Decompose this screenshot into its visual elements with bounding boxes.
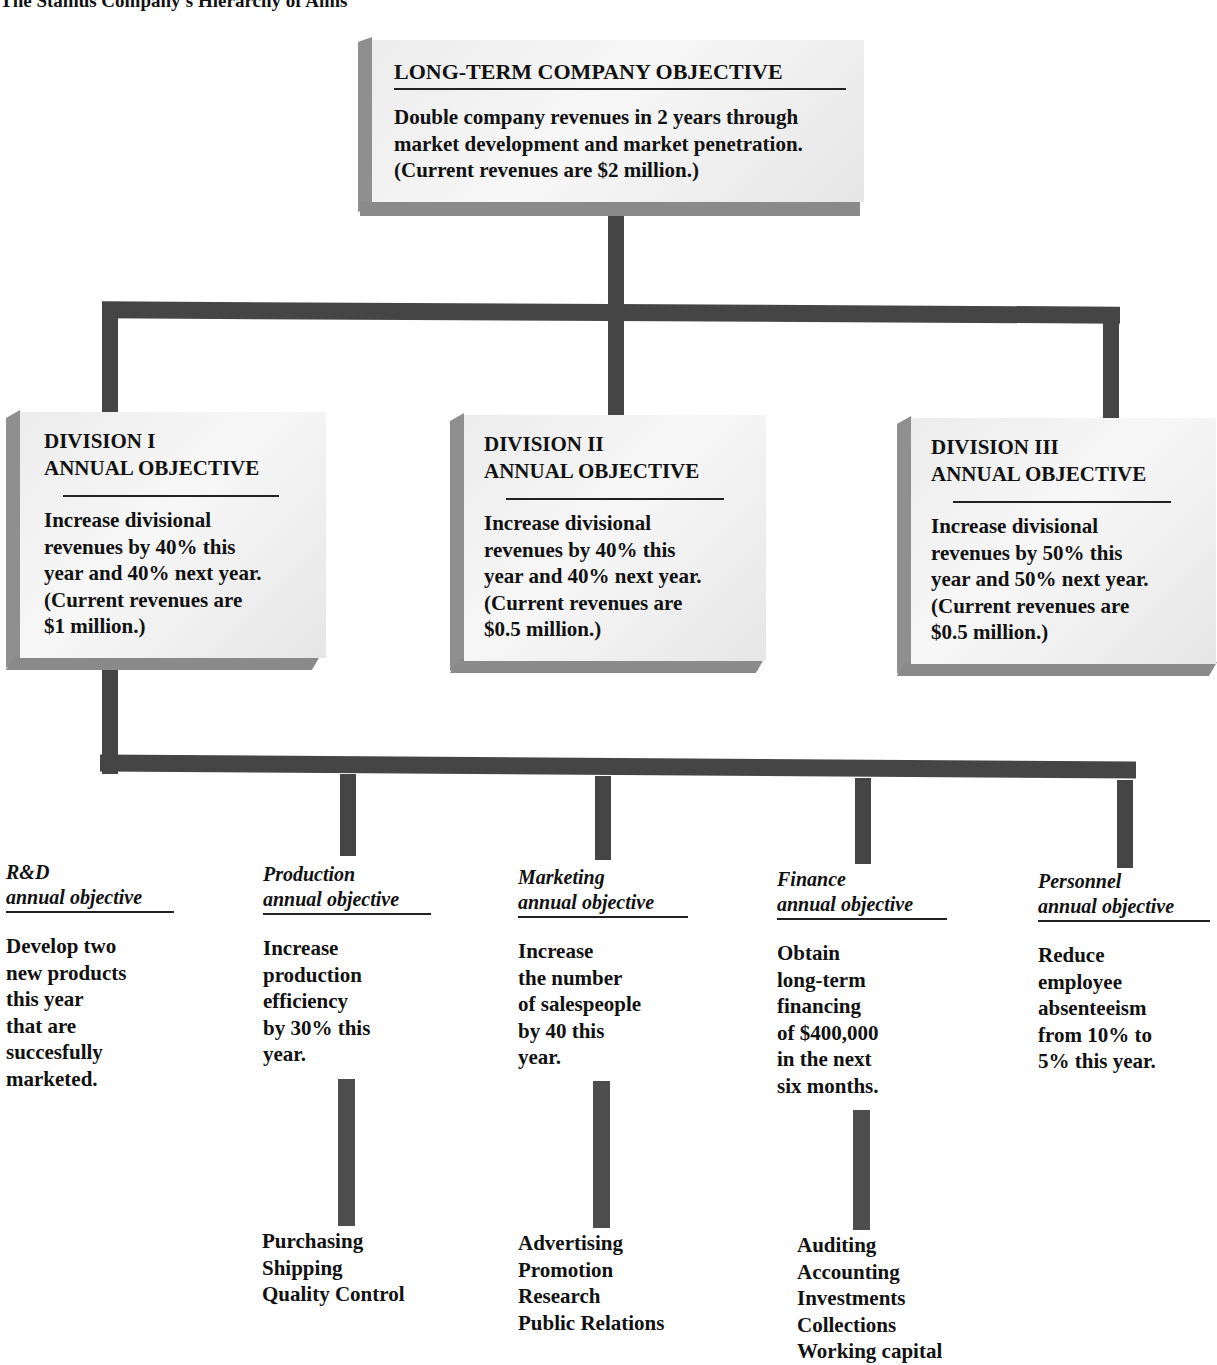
department-name: R&D	[6, 860, 176, 885]
department-objective: Develop two new products this year that …	[6, 933, 176, 1092]
department-name: Marketing	[518, 865, 688, 890]
list-item: Working capital	[797, 1338, 942, 1365]
division-2-objective-box: DIVISION II ANNUAL OBJECTIVE Increase di…	[450, 413, 766, 675]
connector-division-1-down	[102, 305, 118, 415]
connector-production-down	[340, 774, 356, 856]
list-item: Purchasing	[262, 1228, 405, 1255]
division-1-objective-box: DIVISION I ANNUAL OBJECTIVE Increase div…	[6, 410, 322, 672]
list-item: Collections	[797, 1312, 942, 1339]
department-marketing: Marketing annual objective Increase the …	[518, 865, 688, 1071]
division-1-heading: DIVISION I ANNUAL OBJECTIVE	[44, 428, 306, 482]
connector-division-3-down	[1103, 310, 1119, 418]
division-3-objective-box: DIVISION III ANNUAL OBJECTIVE Increase d…	[897, 416, 1216, 678]
box-bottom-shadow	[360, 202, 860, 216]
department-finance: Finance annual objective Obtain long-ter…	[777, 867, 949, 1099]
department-subtitle: annual objective	[777, 892, 949, 917]
department-subtitle: annual objective	[6, 885, 176, 910]
department-name: Finance	[777, 867, 949, 892]
department-subtitle: annual objective	[263, 887, 433, 912]
department-underline	[777, 918, 947, 920]
division-2-heading: DIVISION II ANNUAL OBJECTIVE	[484, 431, 746, 485]
connector-finance-down	[855, 778, 871, 864]
list-item: Advertising	[518, 1230, 664, 1257]
connector-marketing-down	[595, 776, 611, 860]
heading-rule	[63, 495, 279, 497]
department-personnel: Personnel annual objective Reduce employ…	[1038, 869, 1210, 1075]
list-item: Public Relations	[518, 1310, 664, 1337]
heading-rule	[506, 498, 724, 500]
department-production: Production annual objective Increase pro…	[263, 862, 433, 1068]
department-underline	[1038, 920, 1210, 922]
department-rd: R&D annual objective Develop two new pro…	[6, 860, 176, 1092]
department-name: Production	[263, 862, 433, 887]
company-objective-box: LONG-TERM COMPANY OBJECTIVE Double compa…	[358, 36, 866, 216]
division-1-objective-text: Increase divisional revenues by 40% this…	[44, 507, 306, 640]
department-underline	[6, 911, 174, 913]
list-item: Promotion	[518, 1257, 664, 1284]
division-3-heading: DIVISION III ANNUAL OBJECTIVE	[931, 434, 1193, 488]
department-subtitle: annual objective	[518, 890, 688, 915]
connector-division-horizontal	[102, 301, 1120, 323]
heading-rule	[953, 501, 1171, 503]
division-3-objective-text: Increase divisional revenues by 50% this…	[931, 513, 1193, 646]
box-side-shadow	[358, 37, 372, 212]
department-objective: Increase production efficiency by 30% th…	[263, 935, 433, 1068]
page-title: The Stanius Company's Hierarchy of Aims	[0, 0, 348, 12]
finance-task-list: Auditing Accounting Investments Collecti…	[797, 1232, 942, 1365]
company-objective-heading: LONG-TERM COMPANY OBJECTIVE	[394, 58, 846, 85]
marketing-task-list: Advertising Promotion Research Public Re…	[518, 1230, 664, 1336]
list-item: Auditing	[797, 1232, 942, 1259]
heading-rule	[394, 88, 846, 90]
list-item: Shipping	[262, 1255, 405, 1282]
connector-production-tasks	[338, 1079, 355, 1226]
department-objective: Reduce employee absenteeism from 10% to …	[1038, 942, 1210, 1075]
list-item: Research	[518, 1283, 664, 1310]
division-2-objective-text: Increase divisional revenues by 40% this…	[484, 510, 746, 643]
department-objective: Obtain long-term financing of $400,000 i…	[777, 940, 949, 1099]
department-underline	[263, 913, 431, 915]
department-subtitle: annual objective	[1038, 894, 1210, 919]
list-item: Quality Control	[262, 1281, 405, 1308]
list-item: Investments	[797, 1285, 942, 1312]
department-underline	[518, 916, 688, 918]
list-item: Accounting	[797, 1259, 942, 1286]
company-objective-text: Double company revenues in 2 years throu…	[394, 104, 846, 184]
connector-marketing-tasks	[593, 1081, 610, 1228]
connector-personnel-down	[1117, 780, 1133, 868]
connector-department-horizontal	[100, 754, 1136, 778]
production-task-list: Purchasing Shipping Quality Control	[262, 1228, 405, 1308]
department-name: Personnel	[1038, 869, 1210, 894]
connector-finance-tasks	[853, 1110, 870, 1230]
department-objective: Increase the number of salespeople by 40…	[518, 938, 688, 1071]
